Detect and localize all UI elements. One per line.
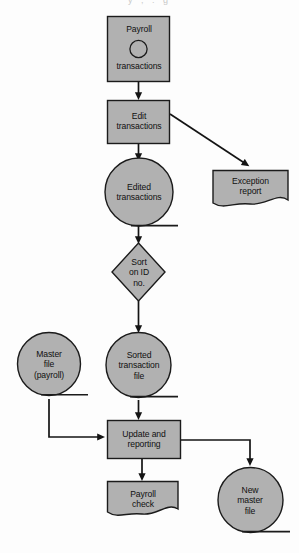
edge-master-file-to-update <box>49 399 101 437</box>
node-sort-on-id-no[interactable] <box>112 243 165 301</box>
node-exception-report[interactable] <box>213 171 288 206</box>
node-sorted-transaction-file[interactable] <box>106 333 178 398</box>
edge-edit-to-exception <box>170 114 246 164</box>
node-edited-transactions[interactable] <box>105 158 178 226</box>
node-update-and-reporting[interactable] <box>108 421 181 459</box>
node-new-master-file[interactable] <box>218 468 290 533</box>
node-payroll-transactions[interactable] <box>108 17 170 82</box>
flowchart-graphics <box>0 0 299 553</box>
node-edit-transactions[interactable] <box>108 101 170 144</box>
flowchart-canvas: y , . g <box>0 0 299 553</box>
edge-update-to-new-master-file <box>181 440 250 462</box>
node-master-file-payroll[interactable] <box>18 333 89 396</box>
node-payroll-check[interactable] <box>108 482 179 516</box>
